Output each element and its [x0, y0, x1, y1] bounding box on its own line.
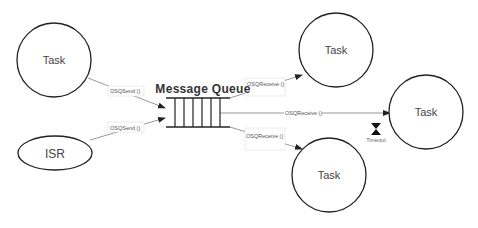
- node-task-top-right: Task: [299, 13, 373, 87]
- timeout-label: Timeout: [366, 137, 386, 143]
- edge-label-text: OSQReceive (): [247, 81, 284, 87]
- hourglass-icon: [371, 123, 381, 135]
- edge-label-text: OSQSend (): [110, 125, 140, 131]
- node-message-queue: Message Queue: [155, 82, 250, 127]
- edge-label-text: OSQReceive (): [246, 133, 283, 139]
- message-queue-diagram: OSQSend () OSQSend () OSQReceive () OSQR…: [0, 0, 478, 228]
- edge-label-isr-send: OSQSend (): [108, 122, 144, 132]
- timeout-indicator: Timeout: [366, 123, 386, 143]
- edge-label-receive-bottom: OSQReceive (): [245, 128, 285, 150]
- node-task-left: Task: [17, 23, 91, 97]
- edge-label-receive-top: OSQReceive (): [245, 78, 285, 96]
- edge-label-task-send: OSQSend (): [108, 86, 144, 96]
- node-label: Task: [318, 169, 341, 181]
- node-task-bottom-right: Task: [292, 138, 366, 212]
- edge-label-receive-far: OSQReceive (): [284, 109, 322, 117]
- node-label: Task: [325, 44, 348, 56]
- edge-label-text: OSQReceive (): [285, 110, 322, 116]
- node-label: ISR: [45, 147, 65, 161]
- edge-label-text: OSQSend (): [110, 88, 140, 94]
- node-task-far-right: Task: [389, 75, 463, 149]
- queue-title: Message Queue: [155, 82, 250, 96]
- node-isr: ISR: [18, 136, 92, 170]
- node-label: Task: [415, 106, 438, 118]
- node-label: Task: [43, 54, 66, 66]
